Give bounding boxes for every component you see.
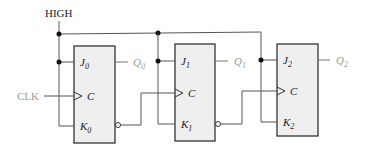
jk-counter-diagram: HIGH J0 C K0 Q0 CLK J1 C K1 Q1 [0, 0, 366, 149]
inverted-output-bubble [116, 123, 121, 128]
c0-label: C [87, 90, 95, 102]
junction-dot [57, 32, 62, 37]
c1-label: C [188, 87, 196, 99]
clock-link-1 [221, 91, 277, 124]
q0-label: Q0 [133, 56, 145, 71]
flipflop-1: J1 C K1 Q1 [156, 33, 246, 141]
clk-label: CLK [17, 90, 39, 102]
flipflop-0: J0 C K0 Q0 [57, 46, 145, 143]
high-label: HIGH [45, 7, 73, 19]
c2-label: C [290, 85, 298, 97]
inverted-output-bubble [216, 122, 221, 127]
q2-label: Q2 [336, 54, 348, 69]
flipflop-2: J2 C K2 Q2 [259, 32, 348, 136]
q1-label: Q1 [234, 55, 246, 70]
clock-link-0 [121, 93, 175, 125]
